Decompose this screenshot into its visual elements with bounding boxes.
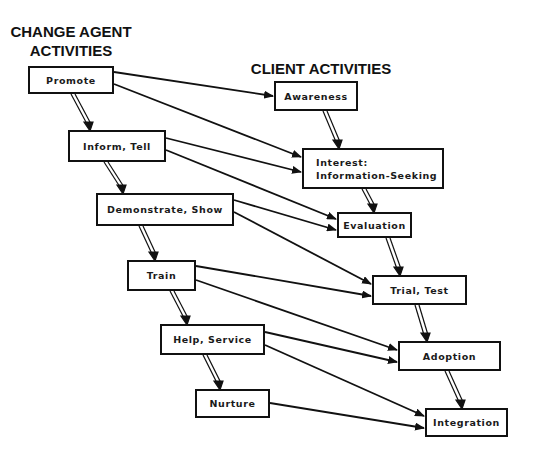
activity-demonstrate-show: Demonstrate, Show bbox=[96, 193, 234, 226]
client-evaluation: Evaluation bbox=[337, 212, 412, 238]
activity-nurture: Nurture bbox=[195, 389, 270, 418]
activity-train: Train bbox=[127, 260, 196, 291]
client-trial-test: Trial, Test bbox=[372, 275, 467, 305]
activity-inform-tell: Inform, Tell bbox=[68, 130, 166, 162]
client-integration: Integration bbox=[425, 408, 508, 437]
activity-promote: Promote bbox=[28, 66, 114, 94]
client-interest: Interest: Information-Seeking bbox=[302, 148, 444, 189]
client-adoption: Adoption bbox=[398, 341, 501, 371]
activity-help-service: Help, Service bbox=[160, 324, 265, 355]
client-interest-line2: Information-Seeking bbox=[316, 169, 437, 182]
client-awareness: Awareness bbox=[274, 81, 358, 111]
client-interest-line1: Interest: bbox=[316, 156, 368, 169]
influence-arrows bbox=[114, 72, 424, 428]
